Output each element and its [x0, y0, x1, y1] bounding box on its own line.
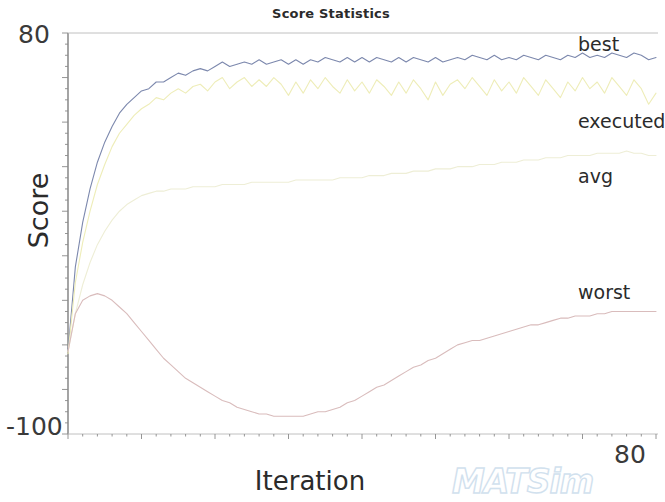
series-line-avg: [68, 151, 656, 352]
y-axis-title: Score: [23, 151, 54, 271]
series-label-executed: executed: [578, 110, 665, 132]
series-label-best: best: [578, 33, 619, 55]
series-line-worst: [68, 294, 656, 417]
y-axis-ticks: [62, 33, 68, 434]
y-axis-tick-label-top: 80: [18, 20, 50, 49]
x-axis-title: Iteration: [150, 466, 470, 496]
series-line-executed: [68, 78, 656, 354]
series-lines-group: [68, 53, 656, 416]
matsim-watermark: MATSim: [452, 462, 593, 501]
x-axis-ticks: [68, 434, 656, 439]
x-axis-tick-label-right: 80: [614, 440, 646, 469]
axes-group: [68, 33, 658, 434]
y-axis-tick-label-bottom: -100: [6, 412, 63, 441]
series-label-worst: worst: [578, 281, 630, 303]
series-label-avg: avg: [578, 165, 613, 187]
